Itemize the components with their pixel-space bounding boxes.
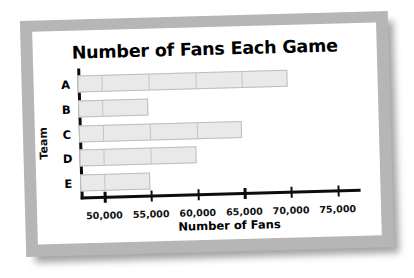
y-tick-label-a: A (57, 77, 73, 91)
bar-e (80, 173, 150, 192)
x-tick-label: 70,000 (273, 204, 310, 216)
bar-segment-divider (150, 149, 151, 164)
bar-d (79, 147, 196, 167)
bar-segment-divider (150, 124, 151, 139)
bar-c (79, 121, 243, 142)
y-tick-label-e: E (60, 177, 76, 191)
x-tick-label: 65,000 (226, 206, 263, 218)
bar-segment-divider (195, 73, 196, 88)
bar-segment-divider (104, 175, 105, 190)
bar-segment-divider (102, 76, 103, 91)
chart-plot-area: Number of Fans Each Game Team ABCDE 50,0… (32, 22, 382, 244)
bar-row (78, 93, 350, 117)
bar-segment-divider (103, 125, 104, 140)
x-tick-label: 75,000 (319, 203, 356, 215)
figure-frame: Number of Fans Each Game Team ABCDE 50,0… (20, 11, 394, 257)
bars-container (77, 64, 352, 195)
bar-a (77, 70, 287, 93)
x-tick-label: 60,000 (179, 207, 216, 219)
bar-row (80, 167, 352, 191)
bar-row (79, 118, 351, 142)
bar-row (79, 142, 351, 166)
bar-segment-divider (102, 100, 103, 115)
y-tick-label-d: D (59, 152, 75, 166)
chart-title: Number of Fans Each Game (32, 34, 376, 63)
figure-stage: Number of Fans Each Game Team ABCDE 50,0… (0, 0, 414, 278)
y-tick-label-b: B (58, 102, 74, 116)
bar-b (78, 98, 148, 117)
y-axis-title: Team (37, 127, 51, 160)
bar-row (77, 68, 349, 92)
bar-segment-divider (148, 74, 149, 89)
x-tick-label: 55,000 (133, 208, 170, 220)
figure-panel: Number of Fans Each Game Team ABCDE 50,0… (32, 22, 382, 244)
bar-segment-divider (242, 72, 243, 87)
y-axis-tick-labels: ABCDE (53, 72, 76, 196)
x-tick-label: 50,000 (86, 209, 123, 221)
bar-segment-divider (104, 150, 105, 165)
bar-segment-divider (196, 123, 197, 138)
y-tick-label-c: C (59, 127, 75, 141)
